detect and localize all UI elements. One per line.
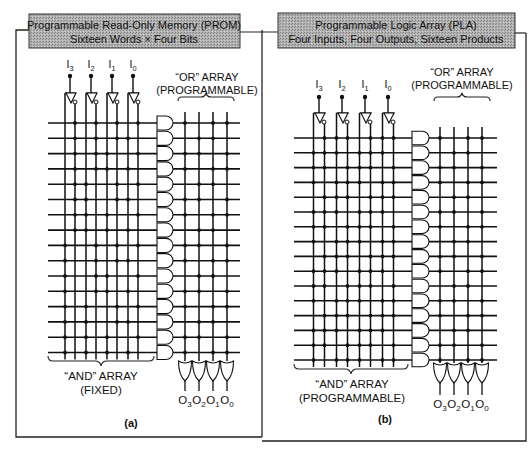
output-label-o1: O1 — [461, 398, 475, 413]
and-gate-icon — [157, 284, 173, 298]
and-gate-icon — [157, 345, 173, 359]
or-gate-icon — [179, 361, 192, 381]
output-label-o1: O1 — [206, 394, 220, 409]
or-gates — [179, 361, 234, 391]
or-gate-icon — [193, 361, 206, 381]
and-gate-icon — [157, 330, 173, 344]
and-gate-icon — [157, 192, 173, 206]
output-label-o0: O0 — [475, 398, 489, 413]
output-label-o2: O2 — [447, 398, 461, 413]
output-label-o3: O3 — [178, 394, 192, 409]
and-gate-icon — [412, 338, 429, 352]
and-gate-icon — [412, 294, 429, 308]
title-line-2: Sixteen Words × Four Bits — [70, 33, 198, 45]
title-line-1: Programmable Logic Array (PLA) — [315, 19, 476, 31]
or-gate-icon — [476, 363, 489, 383]
and-gate-icon — [157, 116, 173, 130]
output-labels: O3O2O1O0 — [433, 398, 489, 413]
or-array-grid — [429, 127, 497, 363]
and-array-label: “AND” ARRAY — [64, 370, 138, 382]
and-gate-icon — [157, 269, 173, 283]
and-gate-icon — [157, 147, 173, 161]
or-array-brace — [434, 93, 490, 101]
and-gate-icon — [412, 146, 429, 160]
input-label-i1: I1 — [108, 58, 115, 73]
and-gate-icon — [157, 300, 173, 314]
and-array-brace — [294, 364, 408, 374]
and-gate-icon — [157, 162, 173, 176]
and-gate-icon — [412, 220, 429, 234]
output-label-o0: O0 — [220, 394, 234, 409]
title-line-1: Programmable Read-Only Memory (PROM) — [27, 19, 241, 31]
and-gates — [412, 131, 429, 367]
output-labels: O3O2O1O0 — [178, 394, 234, 409]
and-gate-icon — [412, 309, 429, 323]
or-array-label: “OR” ARRAY — [430, 66, 494, 78]
prom-pla-diagram: Programmable Read-Only Memory (PROM) Six… — [0, 0, 530, 449]
or-gate-icon — [448, 363, 461, 383]
title-line-2: Four Inputs, Four Outputs, Sixteen Produ… — [288, 33, 504, 45]
or-gate-icon — [462, 363, 475, 383]
and-gate-icon — [412, 176, 429, 190]
input-label-i0: I0 — [129, 58, 136, 73]
input-label-i1: I1 — [361, 78, 368, 93]
and-gate-icon — [412, 131, 429, 145]
or-gate-icon — [221, 361, 234, 381]
and-gate-icon — [412, 279, 429, 293]
output-label-o2: O2 — [192, 394, 206, 409]
and-gate-icon — [157, 223, 173, 237]
or-array-sublabel: (PROGRAMMABLE) — [411, 79, 512, 91]
input-label-i0: I0 — [384, 78, 391, 93]
and-array-sublabel: (PROGRAMMABLE) — [299, 392, 405, 404]
and-gate-icon — [157, 131, 173, 145]
and-array-grid — [294, 113, 412, 367]
and-gate-icon — [412, 324, 429, 338]
output-label-o3: O3 — [433, 398, 447, 413]
panel-caption: (b) — [378, 413, 392, 425]
input-label-i2: I2 — [338, 78, 345, 93]
and-gate-icon — [157, 208, 173, 222]
and-gate-icon — [412, 264, 429, 278]
and-gate-icon — [412, 205, 429, 219]
or-gate-icon — [434, 363, 447, 383]
and-gate-icon — [412, 353, 429, 367]
or-gate-icon — [207, 361, 220, 381]
panel-caption: (a) — [124, 417, 138, 429]
and-array-sublabel: (FIXED) — [80, 384, 122, 396]
or-array-label: “OR” ARRAY — [175, 71, 239, 83]
and-gate-icon — [412, 250, 429, 264]
and-gate-icon — [412, 161, 429, 175]
and-gate-icon — [157, 315, 173, 329]
input-label-i2: I2 — [87, 58, 94, 73]
and-gate-icon — [412, 190, 429, 204]
or-gates — [434, 363, 489, 395]
and-gate-icon — [412, 235, 429, 249]
and-gate-icon — [157, 254, 173, 268]
input-label-i3: I3 — [315, 78, 322, 93]
and-array-label: “AND” ARRAY — [315, 378, 389, 390]
panel-prom: Programmable Read-Only Memory (PROM) Six… — [16, 14, 278, 437]
and-array-grid — [48, 93, 157, 360]
input-label-i3: I3 — [66, 58, 73, 73]
and-gates — [157, 116, 173, 360]
and-gate-icon — [157, 238, 173, 252]
or-array-grid — [173, 112, 240, 361]
and-gate-icon — [157, 177, 173, 191]
panel-pla: Programmable Logic Array (PLA) Four Inpu… — [262, 13, 526, 441]
